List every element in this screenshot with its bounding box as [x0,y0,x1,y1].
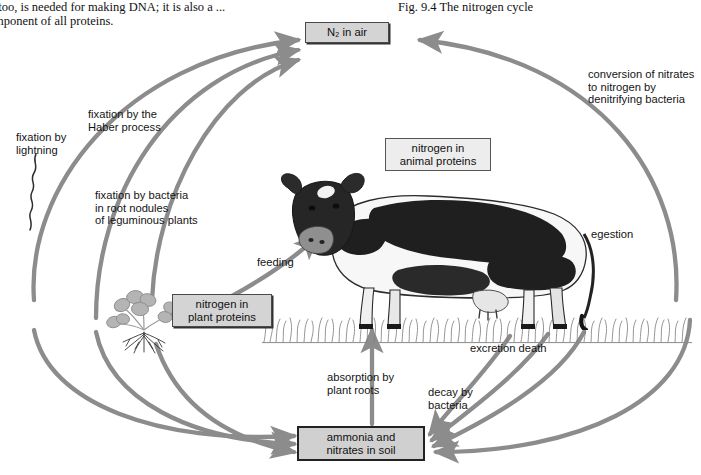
box-animal-proteins-line-2: animal proteins [393,155,483,168]
dairy-cow-illustration [278,158,602,330]
label-legume-line-1: fixation by bacteria [95,189,198,202]
label-absorption-by-plant-roots: absorption by plant roots [327,371,394,396]
label-haber-line-2: Haber process [88,121,161,134]
label-denitrifying-line-3: denitrifying bacteria [588,93,694,106]
label-decay-line-2: bacteria [428,399,473,412]
box-soil-line-1: ammonia and [306,431,416,444]
box-nitrogen-in-animal-proteins[interactable]: nitrogen in animal proteins [385,138,491,171]
box-animal-proteins-line-1: nitrogen in [393,142,483,155]
label-fixation-by-lightning: fixation by lightning [16,131,66,156]
label-feeding: feeding [257,256,294,269]
box-plant-proteins-line-2: plant proteins [180,311,264,324]
box-nitrogen-in-plant-proteins[interactable]: nitrogen in plant proteins [172,294,272,327]
label-absorption-line-2: plant roots [327,384,394,397]
label-decay-line-1: decay by [428,386,473,399]
box-ammonia-and-nitrates-in-soil[interactable]: ammonia and nitrates in soil [297,426,425,461]
label-denitrifying-line-1: conversion of nitrates [588,68,694,81]
nitrogen-cycle-figure: trogen, too, is needed for making DNA; i… [0,0,701,475]
label-fixation-haber-process: fixation by the Haber process [88,108,161,133]
label-fixation-by-bacteria-root-nodules: fixation by bacteria in root nodules of … [95,189,198,227]
label-egestion: egestion [591,228,633,241]
label-legume-line-3: of leguminous plants [95,214,198,227]
label-absorption-line-1: absorption by [327,371,394,384]
lightning-bolt-icon [22,152,56,232]
label-denitrifying-bacteria: conversion of nitrates to nitrogen by de… [588,68,694,106]
box-plant-proteins-line-1: nitrogen in [180,298,264,311]
box-n2-in-air[interactable]: N₂ in air [305,22,389,43]
label-denitrifying-line-2: to nitrogen by [588,81,694,94]
label-decay-by-bacteria: decay by bacteria [428,386,473,411]
label-lightning-line-1: fixation by [16,131,66,144]
box-n2-in-air-label: N₂ in air [327,26,367,38]
box-soil-line-2: nitrates in soil [306,444,416,457]
label-legume-line-2: in root nodules [95,202,198,215]
label-lightning-line-2: lightning [16,144,66,157]
label-excretion-and-death: excretion death [470,342,547,355]
label-haber-line-1: fixation by the [88,108,161,121]
